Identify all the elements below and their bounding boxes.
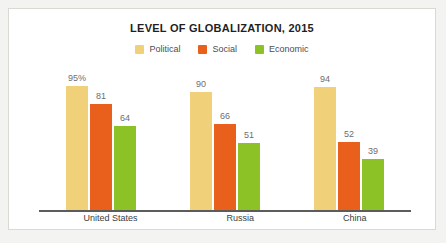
bar-rect: [238, 143, 260, 210]
legend-label-social: Social: [212, 45, 237, 54]
bar-value-label: 51: [244, 131, 254, 140]
plot-area: 95% 81 64 90 66: [9, 64, 435, 212]
bar-china-political[interactable]: 94: [314, 64, 336, 210]
bar-rect: [190, 92, 212, 210]
legend-swatch-economic: [255, 45, 264, 54]
x-axis-label-united-states: United States: [83, 214, 137, 223]
bar-russia-political[interactable]: 90: [190, 64, 212, 210]
legend-item-political[interactable]: Political: [135, 45, 180, 54]
bar-rect: [214, 124, 236, 210]
bar-value-label: 64: [120, 114, 130, 123]
bar-rect: [338, 142, 360, 210]
bar-rect: [314, 87, 336, 210]
legend-swatch-political: [135, 45, 144, 54]
legend-label-economic: Economic: [269, 45, 309, 54]
bar-china-economic[interactable]: 39: [362, 64, 384, 210]
bar-group-china: 94 52 39: [314, 64, 384, 210]
bar-united-states-economic[interactable]: 64: [114, 64, 136, 210]
bar-china-social[interactable]: 52: [338, 64, 360, 210]
bar-rect: [362, 159, 384, 210]
x-axis-labels: United States Russia China: [39, 214, 411, 223]
bar-rect: [114, 126, 136, 210]
chart-legend: Political Social Economic: [9, 45, 435, 54]
bar-value-label: 52: [344, 130, 354, 139]
bar-value-label: 39: [368, 147, 378, 156]
bar-united-states-social[interactable]: 81: [90, 64, 112, 210]
bar-groups: 95% 81 64 90 66: [39, 64, 411, 210]
legend-item-social[interactable]: Social: [198, 45, 237, 54]
bar-value-label: 90: [196, 80, 206, 89]
chart-title: LEVEL OF GLOBALIZATION, 2015: [9, 22, 435, 34]
bar-value-label: 95%: [68, 74, 86, 83]
bar-value-label: 94: [320, 75, 330, 84]
chart-card: LEVEL OF GLOBALIZATION, 2015 Political S…: [8, 8, 436, 230]
x-axis-label-russia: Russia: [226, 214, 254, 223]
legend-swatch-social: [198, 45, 207, 54]
x-axis-label-china: China: [343, 214, 367, 223]
bar-united-states-political[interactable]: 95%: [66, 64, 88, 210]
legend-item-economic[interactable]: Economic: [255, 45, 309, 54]
bar-value-label: 81: [96, 92, 106, 101]
x-axis-line: [39, 210, 411, 212]
bar-rect: [66, 86, 88, 210]
bar-rect: [90, 104, 112, 210]
bar-value-label: 66: [220, 112, 230, 121]
legend-label-political: Political: [149, 45, 180, 54]
bar-russia-social[interactable]: 66: [214, 64, 236, 210]
bar-group-russia: 90 66 51: [190, 64, 260, 210]
bar-russia-economic[interactable]: 51: [238, 64, 260, 210]
bar-group-united-states: 95% 81 64: [66, 64, 136, 210]
